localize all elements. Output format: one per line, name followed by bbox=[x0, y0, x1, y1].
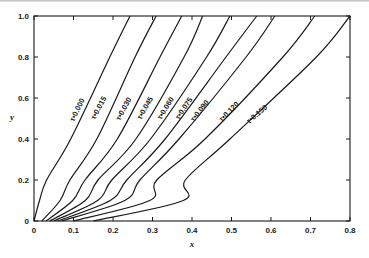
x-tick-label: 0.8 bbox=[344, 226, 356, 235]
y-tick-label: 0.4 bbox=[18, 135, 30, 144]
curve-label-tau-0015: τ•0.015 bbox=[89, 95, 109, 121]
curve-label-tau-0000: τ•0.000 bbox=[68, 97, 87, 123]
x-tick-label: 0.1 bbox=[68, 226, 80, 235]
x-axis-label: x bbox=[189, 239, 195, 249]
curve-labels: τ•0.000 τ•0.015 τ•0.030 τ•0.045 τ•0.060 … bbox=[68, 95, 270, 126]
curve-label-tau-0150: τ•0.150 bbox=[245, 103, 270, 126]
x-tick-label: 0.5 bbox=[226, 226, 238, 235]
x-tick-label: 0.2 bbox=[107, 226, 119, 235]
curve-label-tau-0045: τ•0.045 bbox=[135, 95, 155, 121]
x-tick-label: 0 bbox=[32, 226, 37, 235]
x-tick-labels: 0 0.1 0.2 0.3 0.4 0.5 0.6 0.7 0.8 bbox=[32, 226, 356, 235]
curve-label-tau-0120: τ•0.120 bbox=[217, 100, 241, 124]
curve-label-tau-0030: τ•0.030 bbox=[114, 96, 134, 122]
y-tick-label: 0.2 bbox=[18, 176, 30, 185]
y-tick-labels: 0 0.2 0.4 0.6 0.8 1.0 bbox=[18, 12, 30, 226]
y-tick-label: 0.8 bbox=[18, 53, 30, 62]
y-tick-label: 1.0 bbox=[18, 12, 30, 21]
y-tick-label: 0 bbox=[25, 217, 30, 226]
x-tick-label: 0.6 bbox=[265, 226, 277, 235]
chart: 0 0.1 0.2 0.3 0.4 0.5 0.6 0.7 0.8 0 0.2 … bbox=[0, 0, 369, 258]
y-tick-label: 0.6 bbox=[18, 94, 30, 103]
x-tick-label: 0.7 bbox=[305, 226, 317, 235]
x-tick-label: 0.3 bbox=[147, 226, 159, 235]
x-tick-label: 0.4 bbox=[186, 226, 198, 235]
y-axis-label: y bbox=[9, 112, 15, 122]
